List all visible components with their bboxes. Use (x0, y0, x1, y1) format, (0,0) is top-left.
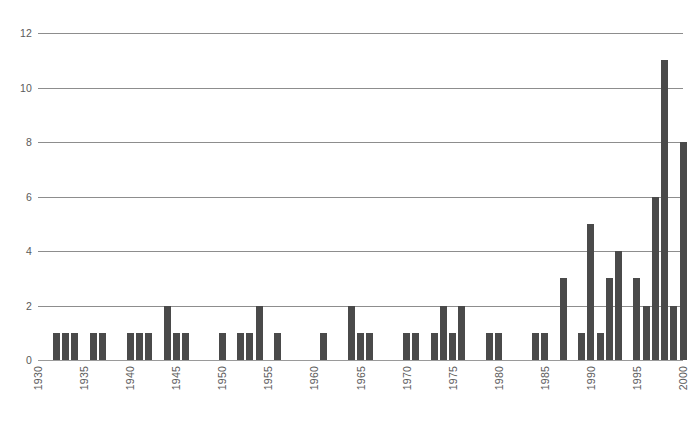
y-tick-label-10: 10 (6, 83, 32, 94)
x-tick-label-1980: 1980 (494, 366, 505, 390)
bar (62, 333, 69, 360)
gridline-y-4 (38, 251, 683, 252)
x-tick-label-1990: 1990 (586, 366, 597, 390)
x-tick-label-1945: 1945 (171, 366, 182, 390)
bar (412, 333, 419, 360)
x-tick-label-1940: 1940 (125, 366, 136, 390)
bar (560, 278, 567, 360)
bar (633, 278, 640, 360)
bar (652, 197, 659, 361)
bar (136, 333, 143, 360)
bar (219, 333, 226, 360)
bar (532, 333, 539, 360)
y-tick-label-6: 6 (6, 192, 32, 203)
bar (99, 333, 106, 360)
y-tick-label-4: 4 (6, 246, 32, 257)
x-tick-label-1935: 1935 (79, 366, 90, 390)
bar (606, 278, 613, 360)
bar-chart: 024681012 193019351940194519501955196019… (0, 0, 693, 423)
bar (320, 333, 327, 360)
bar (587, 224, 594, 360)
bar (348, 306, 355, 361)
x-tick-label-1955: 1955 (263, 366, 274, 390)
bar (661, 60, 668, 360)
gridline-y-12 (38, 33, 683, 34)
x-tick-label-1970: 1970 (402, 366, 413, 390)
bar (431, 333, 438, 360)
bar (495, 333, 502, 360)
y-axis: 024681012 (0, 0, 32, 423)
y-tick-label-12: 12 (6, 28, 32, 39)
bar (256, 306, 263, 361)
x-tick-label-1965: 1965 (356, 366, 367, 390)
bar (90, 333, 97, 360)
gridline-y-6 (38, 197, 683, 198)
bar (643, 306, 650, 361)
bar (449, 333, 456, 360)
plot-area (38, 33, 683, 360)
gridline-y-10 (38, 88, 683, 89)
x-tick-label-1950: 1950 (217, 366, 228, 390)
bar (541, 333, 548, 360)
bar (670, 306, 677, 361)
bar (164, 306, 171, 361)
bar (145, 333, 152, 360)
y-tick-label-0: 0 (6, 355, 32, 366)
bar (127, 333, 134, 360)
bar (182, 333, 189, 360)
gridline-y-0 (38, 360, 683, 361)
bar (615, 251, 622, 360)
bar (53, 333, 60, 360)
y-tick-label-2: 2 (6, 301, 32, 312)
bar (578, 333, 585, 360)
bar (680, 142, 687, 360)
y-tick-label-8: 8 (6, 137, 32, 148)
bar (173, 333, 180, 360)
bar (357, 333, 364, 360)
x-tick-label-1985: 1985 (540, 366, 551, 390)
bar (458, 306, 465, 361)
bar (366, 333, 373, 360)
bar (274, 333, 281, 360)
x-tick-label-1960: 1960 (309, 366, 320, 390)
x-tick-label-1995: 1995 (632, 366, 643, 390)
bar (237, 333, 244, 360)
x-tick-label-1930: 1930 (33, 366, 44, 390)
bar (597, 333, 604, 360)
gridline-y-8 (38, 142, 683, 143)
bar (246, 333, 253, 360)
x-tick-label-1975: 1975 (448, 366, 459, 390)
bar (71, 333, 78, 360)
bar (440, 306, 447, 361)
bar (486, 333, 493, 360)
gridline-y-2 (38, 306, 683, 307)
bar (403, 333, 410, 360)
x-tick-label-2000: 2000 (678, 366, 689, 390)
x-axis: 1930193519401945195019551960196519701975… (38, 366, 683, 423)
